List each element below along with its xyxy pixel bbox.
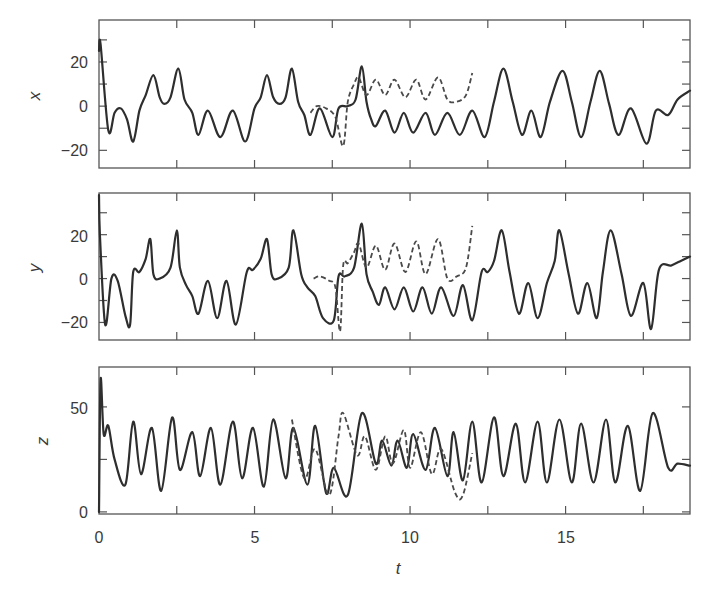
y-axis-title-x: x (25, 91, 44, 101)
x-tick-label-0: 0 (79, 98, 88, 115)
x-tick-label-neg20: −20 (61, 142, 88, 159)
z-tick-label-50: 50 (70, 400, 88, 417)
panel-x: 20 0 −20 x (25, 20, 690, 168)
x-tick-label-20: 20 (70, 54, 88, 71)
panel-z: 50 0 z (33, 367, 690, 521)
t-axis: 0 5 10 15 t (95, 529, 575, 578)
panel-y: 20 0 −20 y (25, 193, 690, 340)
series-y-solid (99, 195, 690, 329)
x-axis-title-t: t (396, 559, 402, 578)
y-axis-title-z: z (33, 436, 52, 446)
series-z-solid (99, 378, 690, 512)
y-tick-label-0: 0 (79, 271, 88, 288)
y-axis-title-y: y (25, 262, 44, 273)
y-tick-label-neg20: −20 (61, 314, 88, 331)
panel-y-frame (99, 193, 690, 340)
panel-y-ticks (99, 193, 690, 340)
lorenz-time-series-figure: 20 0 −20 x 20 0 −20 y 50 0 z 0 5 10 15 t (0, 0, 716, 597)
z-tick-label-0: 0 (79, 504, 88, 521)
t-tick-label-0: 0 (95, 529, 104, 546)
series-x-solid (99, 40, 690, 144)
series-z-dashed (292, 413, 472, 500)
t-tick-label-10: 10 (401, 529, 419, 546)
panel-x-ticks (99, 20, 690, 168)
panel-x-frame (99, 20, 690, 168)
t-tick-label-5: 5 (251, 529, 260, 546)
t-tick-label-15: 15 (557, 529, 575, 546)
y-tick-label-20: 20 (70, 228, 88, 245)
